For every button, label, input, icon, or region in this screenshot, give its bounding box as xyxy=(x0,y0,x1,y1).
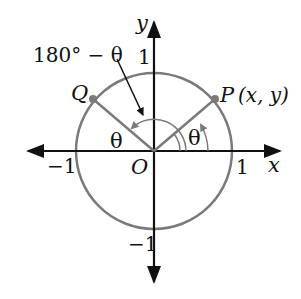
point-p-label: P xyxy=(219,83,235,107)
point-p-coords: (x, y) xyxy=(238,83,289,107)
point-q-label: Q xyxy=(71,81,88,105)
supplement-angle-label: 180° − θ xyxy=(33,43,123,67)
theta-arrow-arc xyxy=(201,125,208,151)
origin-label: O xyxy=(131,155,148,179)
theta-label-right: θ xyxy=(188,126,201,150)
y-axis-label: y xyxy=(135,11,149,35)
unit-circle-diagram: y 1 180° − θ Q P (x, y) θ θ −1 O 1 x −1 xyxy=(0,0,301,299)
point-p xyxy=(211,95,219,103)
y-tick-neg: −1 xyxy=(128,232,157,256)
y-tick-pos: 1 xyxy=(138,45,151,69)
radius-oq xyxy=(93,99,154,151)
theta-arc-right xyxy=(174,134,180,151)
x-tick-pos: 1 xyxy=(236,155,249,179)
theta-label-left: θ xyxy=(110,129,123,153)
x-axis-label: x xyxy=(268,153,280,177)
x-tick-neg: −1 xyxy=(47,154,76,178)
point-q xyxy=(89,95,97,103)
